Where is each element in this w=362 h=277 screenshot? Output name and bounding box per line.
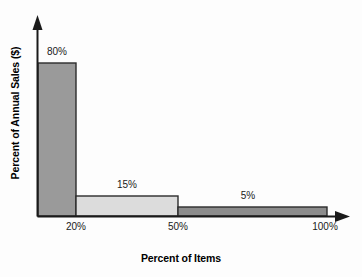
x-axis-title: Percent of Items <box>0 252 362 264</box>
x-tick-label-50: 50% <box>158 221 198 232</box>
x-tick-label-20: 20% <box>56 221 96 232</box>
bar-3 <box>178 207 327 216</box>
plot-area <box>0 0 362 277</box>
x-tick-label-100: 100% <box>305 221 345 232</box>
bar-value-label-1: 80% <box>38 46 76 57</box>
bar-value-label-2: 15% <box>97 179 157 190</box>
bar-1 <box>38 63 76 216</box>
y-axis-arrow-icon <box>33 15 43 30</box>
bar-2 <box>76 196 178 216</box>
bar-value-label-3: 5% <box>218 190 278 201</box>
pareto-chart: Percent of Annual Sales ($) 80% 15% 5% 2… <box>0 0 362 277</box>
